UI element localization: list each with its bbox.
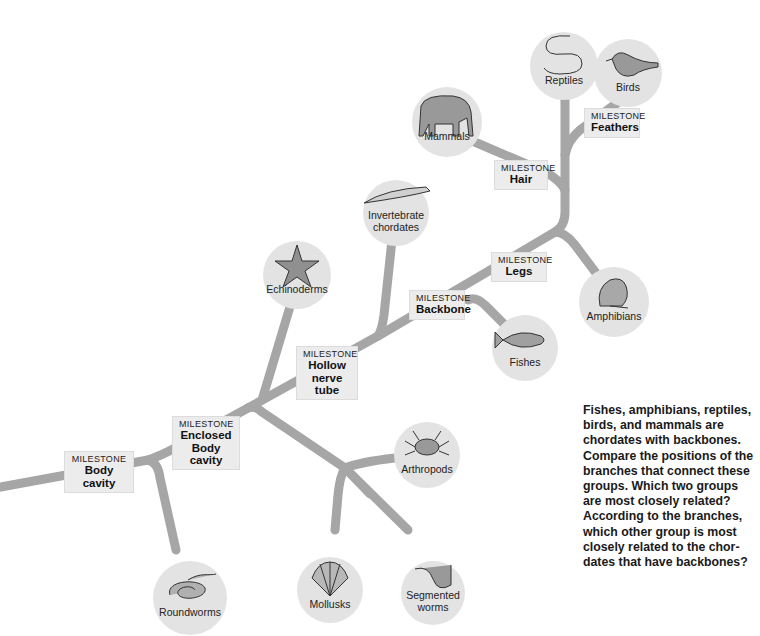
node-circle [530, 32, 598, 100]
milestone-kicker: MILESTONE [179, 420, 233, 429]
branch-invertebrates [248, 407, 370, 494]
node-label: Segmented [406, 589, 460, 601]
milestone-legs: MILESTONE Legs [491, 252, 547, 282]
node-echinoderms: Echinoderms [263, 241, 331, 309]
caption-question: Fishes, amphibians, reptiles, birds, and… [583, 403, 755, 570]
node-roundworms: Roundworms [153, 561, 227, 635]
node-label: Mollusks [310, 598, 351, 610]
milestone-title: Body cavity [71, 464, 127, 488]
milestone-title: Feathers [591, 121, 633, 133]
node-label: Mammals [424, 130, 470, 142]
branch-roundworms [148, 460, 176, 550]
node-mollusks: Mollusks [297, 557, 363, 623]
node-amphibians: Amphibians [579, 267, 649, 337]
milestone-kicker: MILESTONE [591, 112, 633, 121]
milestone-title: Backbone [416, 303, 458, 315]
branch-mollusks [335, 468, 345, 530]
milestone-feathers: MILESTONE Feathers [584, 108, 640, 138]
milestone-hair: MILESTONE Hair [494, 160, 548, 190]
node-label: Arthropods [401, 463, 452, 475]
milestone-title: Enclosed [179, 429, 233, 441]
milestone-kicker: MILESTONE [501, 164, 541, 173]
node-birds: Birds [594, 39, 662, 107]
node-label: Birds [616, 81, 640, 93]
node-fishes: Fishes [492, 315, 558, 381]
milestone-enclosed-body-cavity: MILESTONE Enclosed Body cavity [172, 416, 240, 470]
node-label: Roundworms [159, 606, 221, 618]
milestone-backbone: MILESTONE Backbone [409, 290, 465, 320]
node-label: Invertebrate [368, 209, 424, 221]
node-label: Fishes [510, 356, 541, 368]
branch-segmented-worms [345, 468, 408, 530]
node-label: chordates [373, 221, 419, 233]
node-label: worms [417, 601, 449, 613]
node-circle [492, 315, 558, 381]
milestone-title: Body cavity [179, 442, 233, 466]
milestone-title: Legs [498, 265, 540, 277]
milestone-body-cavity: MILESTONE Body cavity [64, 451, 134, 493]
milestone-kicker: MILESTONE [71, 455, 127, 464]
branch-invertebrate-chordates [378, 240, 392, 336]
branch-arthropods [345, 458, 395, 468]
node-label: Amphibians [587, 310, 642, 322]
milestone-kicker: MILESTONE [303, 350, 351, 359]
milestone-hollow-nerve-tube: MILESTONE Hollow nerve tube [296, 346, 358, 400]
milestone-kicker: MILESTONE [498, 256, 540, 265]
node-reptiles: Reptiles [530, 32, 598, 100]
node-mammals: Mammals [412, 87, 482, 157]
node-label: Echinoderms [266, 283, 327, 295]
milestone-title: Hollow [303, 359, 351, 371]
milestone-title: nerve tube [303, 372, 351, 396]
node-invertebrate-chordates: Invertebratechordates [363, 180, 430, 246]
node-label: Reptiles [545, 74, 583, 86]
node-arthropods: Arthropods [394, 422, 460, 488]
node-segmented-worms: Segmentedworms [401, 561, 465, 625]
milestone-kicker: MILESTONE [416, 294, 458, 303]
milestone-title: Hair [501, 173, 541, 185]
